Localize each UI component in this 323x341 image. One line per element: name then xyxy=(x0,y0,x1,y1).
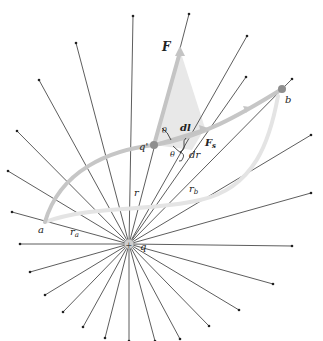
field-line xyxy=(129,79,292,244)
field-line xyxy=(129,244,155,341)
label-theta-bottom: θ xyxy=(170,150,175,159)
label-F: F xyxy=(161,40,172,54)
field-line-arrow-icon xyxy=(29,271,32,274)
field-line-arrow-icon xyxy=(188,13,191,16)
point-b xyxy=(278,85,286,93)
field-line-arrow-icon xyxy=(246,35,249,38)
field-line xyxy=(129,36,247,244)
field-line-arrow-icon xyxy=(310,134,313,137)
field-line xyxy=(129,244,292,246)
label-a: a xyxy=(38,224,44,235)
electric-field-work-diagram: + F q' θ θ dl Fs dr r rb ra a b q xyxy=(0,0,323,341)
field-line-arrow-icon xyxy=(245,76,248,79)
field-line xyxy=(129,193,311,244)
field-line-arrow-icon xyxy=(19,243,22,246)
field-line-arrow-icon xyxy=(208,325,211,328)
field-line xyxy=(129,244,273,284)
field-line-arrow-icon xyxy=(238,309,241,312)
plus-icon: + xyxy=(126,241,133,250)
field-line-arrow-icon xyxy=(7,170,10,173)
field-line-arrow-icon xyxy=(132,15,135,18)
field-line-arrow-icon xyxy=(310,192,313,195)
label-b: b xyxy=(285,94,291,105)
label-dr: dr xyxy=(189,149,201,160)
test-charge-q-prime xyxy=(150,141,158,149)
label-q: q xyxy=(140,241,146,252)
label-rb: rb xyxy=(189,183,199,196)
field-lines xyxy=(7,13,313,341)
field-line xyxy=(105,244,129,338)
label-dl: dl xyxy=(180,122,191,133)
field-line-arrow-icon xyxy=(75,42,78,45)
field-line-arrow-icon xyxy=(179,338,182,341)
label-r: r xyxy=(134,187,140,198)
field-line-arrow-icon xyxy=(38,79,41,82)
force-arrowhead-icon xyxy=(175,46,185,56)
field-line-arrow-icon xyxy=(291,245,294,248)
field-line xyxy=(129,244,180,339)
field-line-arrow-icon xyxy=(62,311,65,314)
field-line xyxy=(83,244,129,327)
label-Fs: Fs xyxy=(204,137,216,150)
field-line-arrow-icon xyxy=(104,337,107,340)
field-line-arrow-icon xyxy=(291,78,294,81)
label-q-prime: q' xyxy=(139,141,148,152)
field-line xyxy=(30,244,129,272)
field-line-arrow-icon xyxy=(272,283,275,286)
label-ra: ra xyxy=(70,226,79,239)
label-theta-top: θ xyxy=(162,126,167,135)
field-line-arrow-icon xyxy=(16,130,19,133)
field-line-arrow-icon xyxy=(82,326,85,329)
field-line-arrow-icon xyxy=(44,294,47,297)
field-line-arrow-icon xyxy=(11,211,14,214)
